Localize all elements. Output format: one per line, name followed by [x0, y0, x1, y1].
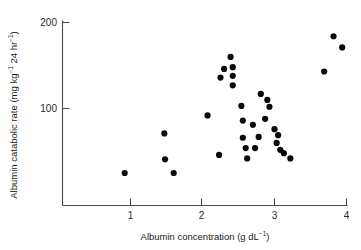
- data-point: [252, 145, 258, 151]
- x-axis-title-end: ): [266, 231, 269, 242]
- data-point: [258, 91, 264, 97]
- y-tick-label-200: 200: [40, 17, 57, 28]
- data-point: [287, 155, 293, 161]
- x-axis-title: Albumin concentration (g dL−1): [141, 230, 270, 242]
- data-point: [230, 82, 236, 88]
- data-point: [227, 54, 233, 60]
- data-point: [230, 73, 236, 79]
- y-axis-title-p2: 24 hr: [8, 42, 19, 66]
- data-point: [281, 150, 287, 156]
- x-axis-title-main: Albumin concentration (g dL: [141, 231, 259, 242]
- x-tick-label-4: 4: [344, 210, 350, 221]
- x-tick-label-3: 3: [272, 210, 278, 221]
- data-point: [240, 135, 246, 141]
- y-axis-title: Albumin catabolic rate (mg kg−1 24 hr−1): [7, 31, 19, 198]
- data-point: [256, 134, 262, 140]
- data-point: [204, 112, 210, 118]
- data-point: [161, 130, 167, 136]
- x-tick-label-2: 2: [199, 210, 205, 221]
- x-tick-label-1: 1: [128, 210, 134, 221]
- data-point: [221, 66, 227, 72]
- y-tick-label-100: 100: [40, 103, 57, 114]
- data-point: [262, 116, 268, 122]
- y-axis-title-p3: ): [8, 31, 19, 34]
- data-point: [264, 97, 270, 103]
- data-point: [216, 152, 222, 158]
- data-point: [122, 170, 128, 176]
- data-point: [339, 44, 345, 50]
- data-point: [243, 145, 249, 151]
- data-point: [171, 170, 177, 176]
- data-point: [275, 132, 281, 138]
- data-point: [274, 140, 280, 146]
- data-point: [266, 104, 272, 110]
- data-point: [230, 64, 236, 70]
- y-tick-labels: 200 100: [40, 17, 57, 114]
- data-point: [330, 33, 336, 39]
- data-point: [321, 68, 327, 74]
- plot-axes: [63, 21, 348, 206]
- data-point: [244, 155, 250, 161]
- data-point: [240, 117, 246, 123]
- data-point: [238, 103, 244, 109]
- data-point: [271, 126, 277, 132]
- data-point: [217, 74, 223, 80]
- data-point-group: [122, 33, 346, 176]
- data-point: [250, 122, 256, 128]
- y-axis-title-p1: Albumin catabolic rate (mg kg: [8, 74, 19, 199]
- data-point: [162, 156, 168, 162]
- x-tick-labels: 1 2 3 4: [128, 210, 350, 221]
- scatter-plot: 200 100 1 2 3 4 Albumin concentration (g…: [0, 0, 361, 250]
